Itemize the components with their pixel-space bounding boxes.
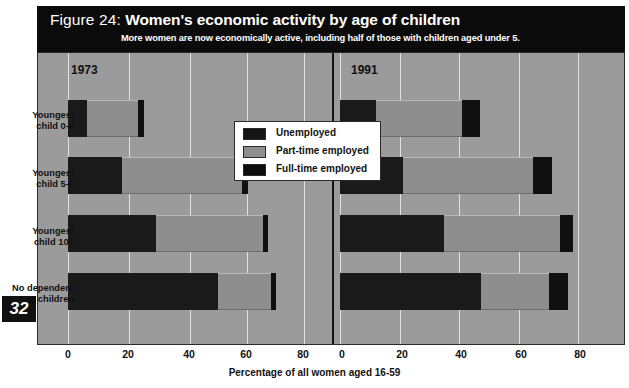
x-tick-1973-0: 0 [65, 348, 71, 360]
x-axis-title: Percentage of all women aged 16-59 [0, 367, 629, 378]
x-tick-1973-60: 60 [240, 348, 252, 360]
figure-subtitle: More women are now economically active, … [121, 33, 520, 43]
bar-segment-unemployed [68, 215, 156, 252]
legend-label: Full-time employed [276, 163, 367, 174]
bar-segment-full-time [560, 215, 573, 252]
legend-swatch-icon [243, 128, 266, 140]
bar-segment-unemployed [68, 273, 218, 310]
bar-segment-full-time [271, 273, 276, 310]
bar-segment-part-time [403, 157, 533, 194]
figure-container: Figure 24: Women's economic activity by … [0, 0, 629, 388]
bar-segment-full-time [138, 100, 144, 137]
x-tick-1973-40: 40 [183, 348, 195, 360]
bar-segment-full-time [263, 215, 268, 252]
figure-title: Women's economic activity by age of chil… [125, 11, 460, 28]
category-label-2: Youngestchild 10+ [0, 226, 74, 248]
bar-segment-full-time [462, 100, 480, 137]
legend-label: Unemployed [276, 127, 336, 138]
x-tick-1991-40: 40 [455, 348, 467, 360]
x-tick-1991-20: 20 [396, 348, 408, 360]
panel-1991: 1991 [332, 53, 628, 344]
gridline [304, 53, 305, 344]
bar-segment-part-time [156, 215, 263, 252]
page-number-badge: 32 [2, 296, 36, 322]
legend-swatch-icon [243, 146, 266, 158]
bar-segment-part-time [376, 100, 462, 137]
bar-segment-part-time [87, 100, 138, 137]
bar-segment-part-time [218, 273, 271, 310]
panel-1973: 1973 [38, 53, 332, 344]
x-tick-1991-0: 0 [339, 348, 345, 360]
category-label-1: Youngestchild 5-9 [0, 168, 74, 190]
bar-segment-unemployed [340, 215, 444, 252]
bar-segment-full-time [533, 157, 552, 194]
x-tick-1973-20: 20 [122, 348, 134, 360]
figure-number: Figure 24: [50, 11, 121, 28]
legend-label: Part-time employed [276, 145, 369, 156]
bar-segment-part-time [122, 157, 242, 194]
plot-area: 1973 [37, 52, 625, 345]
bar-segment-part-time [481, 273, 549, 310]
bar-segment-full-time [549, 273, 568, 310]
gridline [578, 53, 579, 344]
chart-legend: Unemployed Part-time employed Full-time … [234, 121, 381, 181]
x-tick-1991-60: 60 [515, 348, 527, 360]
panel-label-1991: 1991 [351, 63, 378, 77]
bar-segment-unemployed [340, 273, 481, 310]
bar-segment-unemployed [68, 157, 122, 194]
panel-label-1973: 1973 [71, 63, 98, 77]
x-tick-1973-80: 80 [297, 348, 309, 360]
figure-header: Figure 24: Women's economic activity by … [37, 6, 625, 52]
bar-segment-part-time [444, 215, 560, 252]
x-tick-1991-80: 80 [574, 348, 586, 360]
category-label-0: Youngestchild 0-4 [0, 110, 74, 132]
legend-swatch-icon [243, 164, 266, 176]
figure-heading: Figure 24: Women's economic activity by … [50, 11, 460, 29]
